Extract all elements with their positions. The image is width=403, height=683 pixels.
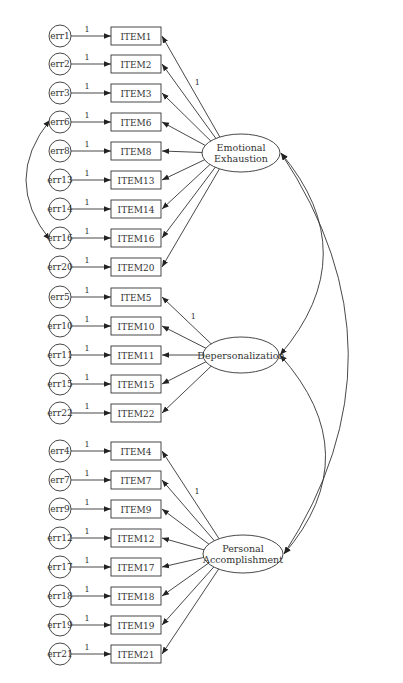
indicator-row: err131ITEM13 [47,169,161,191]
error-term-label: err2 [50,59,70,69]
error-term-label: err18 [47,591,73,601]
factor-loading-arrow [162,538,207,551]
item-label: ITEM19 [118,621,155,631]
item-label: ITEM10 [118,322,155,332]
factor-covariance-arc [281,153,348,554]
error-path-label: 1 [84,111,89,120]
error-path-label: 1 [84,585,89,594]
item-label: ITEM3 [120,89,151,99]
indicator-row: err91ITEM9 [49,498,161,520]
indicator-row: err101ITEM10 [47,315,161,337]
error-path-label: 1 [84,82,89,91]
error-path-label: 1 [84,556,89,565]
factor-loading-arrow [162,64,217,140]
item-label: ITEM6 [120,118,151,128]
error-path-label: 1 [84,198,89,207]
error-term-label: err16 [47,233,73,243]
item-label: ITEM22 [118,409,155,419]
loading-label: 1 [195,78,200,87]
item-label: ITEM7 [120,476,151,486]
factor-loading-arrow [162,557,207,567]
error-term-label: err3 [50,88,70,98]
latent-factors: EmotionalExhaustionDepersonalizationPers… [197,134,284,573]
factor-loading-arrow [162,568,220,654]
factor-loading-arrow [162,122,208,147]
error-term-label: err17 [47,562,73,572]
factor-loading-arrow [162,565,215,625]
error-path-label: 1 [84,440,89,449]
indicator-row: err121ITEM12 [47,527,161,549]
indicator-row: err11ITEM1 [49,25,161,47]
error-term-label: err20 [47,262,73,272]
indicator-rows: err11ITEM1err21ITEM2err31ITEM3err61ITEM6… [47,25,161,665]
error-path-label: 1 [84,498,89,507]
error-term-label: err9 [50,504,70,514]
indicator-row: err21ITEM2 [49,53,161,75]
error-term-label: err5 [50,292,70,302]
item-label: ITEM17 [118,563,155,573]
factor-loading-arrow [162,480,216,542]
indicator-row: err201ITEM20 [47,256,161,278]
error-term-label: err22 [47,408,72,418]
error-path-label: 1 [84,643,89,652]
loading-label: 1 [191,312,196,321]
error-term-label: err4 [50,446,70,456]
error-path-label: 1 [84,169,89,178]
cfa-diagram: 111 err11ITEM1err21ITEM2err31ITEM3err61I… [0,0,403,683]
factor-loading-arrow [162,326,208,349]
item-label: ITEM21 [118,650,155,660]
item-label: ITEM13 [118,176,155,186]
indicator-row: err111ITEM11 [47,344,161,366]
error-term-label: err21 [47,649,72,659]
error-term-label: err8 [50,146,70,156]
error-term-label: err13 [47,175,73,185]
error-term-label: err14 [47,204,73,214]
indicator-row: err81ITEM8 [49,140,161,162]
factor-label: Accomplishment [202,554,283,565]
error-path-label: 1 [84,373,89,382]
item-label: ITEM20 [118,263,155,273]
error-term-label: err10 [47,321,73,331]
indicator-row: err71ITEM7 [49,469,161,491]
indicator-row: err151ITEM15 [47,373,161,395]
item-label: ITEM2 [120,60,151,70]
indicator-row: err221ITEM22 [47,402,161,424]
factor-loading-arrow [162,163,212,209]
error-path-label: 1 [84,53,89,62]
indicator-row: err61ITEM6 [49,111,161,133]
error-path-label: 1 [84,469,89,478]
error-path-label: 1 [84,286,89,295]
factor-loading-arrow [162,36,221,139]
factor-loading-arrow [162,451,220,540]
error-path-label: 1 [84,402,89,411]
factor-loading-arrow [162,297,213,345]
factor-label: Depersonalization [197,350,284,361]
loading-label: 1 [195,487,200,496]
error-term-label: err7 [50,475,70,485]
error-term-label: err1 [50,31,70,41]
item-label: ITEM9 [120,505,151,515]
error-path-label: 1 [84,614,89,623]
error-path-label: 1 [84,227,89,236]
indicator-row: err41ITEM4 [49,440,161,462]
item-label: ITEM12 [118,534,155,544]
latent-factor-dp: Depersonalization [197,337,284,373]
error-term-label: err19 [47,620,73,630]
item-label: ITEM18 [118,592,155,602]
item-label: ITEM15 [118,380,155,390]
item-label: ITEM16 [118,234,155,244]
error-path-label: 1 [84,315,89,324]
factor-label: Exhaustion [214,153,268,164]
latent-factor-ee: EmotionalExhaustion [202,134,280,172]
item-label: ITEM4 [120,447,151,457]
item-label: ITEM11 [118,351,155,361]
indicator-row: err161ITEM16 [47,227,161,249]
error-path-label: 1 [84,140,89,149]
factor-covariance-arc [280,153,323,355]
item-label: ITEM14 [118,205,155,215]
latent-factor-pa: PersonalAccomplishment [202,535,283,573]
item-label: ITEM5 [120,293,151,303]
error-path-label: 1 [84,344,89,353]
item-label: ITEM1 [120,32,151,42]
indicator-row: err191ITEM19 [47,614,161,636]
